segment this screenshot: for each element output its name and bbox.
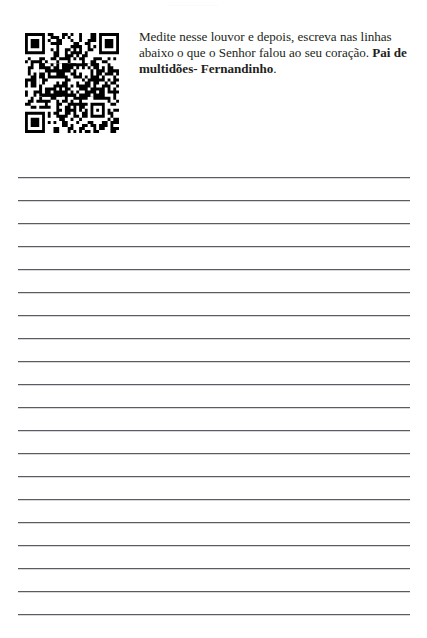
writing-line [18, 246, 410, 247]
writing-line [18, 568, 410, 569]
writing-line [18, 407, 410, 408]
writing-line [18, 545, 410, 546]
writing-line [18, 476, 410, 477]
instruction-line-2-regular: abaixo o que o Senhor falou ao seu coraç… [139, 45, 372, 60]
instruction-period: . [273, 61, 276, 76]
writing-line [18, 453, 410, 454]
writing-line [18, 499, 410, 500]
writing-line [18, 384, 410, 385]
qr-code-icon [25, 33, 119, 133]
writing-line [18, 614, 410, 615]
writing-line [18, 338, 410, 339]
writing-line [18, 315, 410, 316]
writing-line [18, 292, 410, 293]
instruction-text: Medite nesse louvor e depois, escreva na… [139, 29, 422, 78]
writing-line [18, 361, 410, 362]
worksheet-page: { "page": { "background_color": "#ffffff… [0, 0, 427, 638]
writing-line [18, 177, 410, 178]
writing-line [18, 430, 410, 431]
writing-line [18, 200, 410, 201]
writing-line [18, 591, 410, 592]
writing-line [18, 269, 410, 270]
writing-line [18, 522, 410, 523]
writing-line [18, 223, 410, 224]
qr-code[interactable] [25, 33, 119, 133]
instruction-block: Medite nesse louvor e depois, escreva na… [0, 0, 427, 150]
instruction-line-1: Medite nesse louvor e depois, escreva na… [139, 29, 392, 44]
